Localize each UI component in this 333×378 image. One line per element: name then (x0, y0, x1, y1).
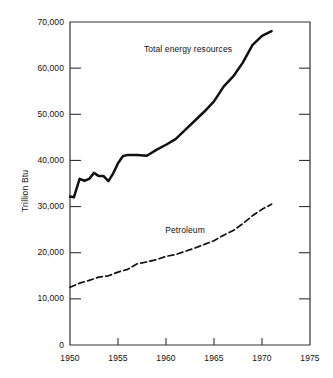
x-tick-label: 1975 (290, 353, 330, 363)
x-tick-label: 1960 (146, 353, 186, 363)
x-tick-label: 1965 (194, 353, 234, 363)
y-axis-ticks-right (299, 68, 310, 299)
y-tick-label: 40,000 (6, 155, 64, 165)
plot-canvas (0, 0, 333, 378)
y-tick-label: 50,000 (6, 109, 64, 119)
series-paths (70, 31, 272, 287)
x-axis-ticks (118, 338, 262, 345)
x-tick-label: 1950 (50, 353, 90, 363)
axis-frame (70, 22, 310, 345)
series-label-total-energy: Total energy resources (0, 44, 333, 54)
energy-resources-chart: Trillion Btu 010,00020,00030,00040,00050… (0, 0, 333, 378)
y-tick-label: 70,000 (6, 17, 64, 27)
y-tick-label: 20,000 (6, 247, 64, 257)
series-label-petroleum: Petroleum (0, 225, 333, 235)
y-tick-label: 10,000 (6, 293, 64, 303)
x-tick-label: 1955 (98, 353, 138, 363)
y-tick-label: 60,000 (6, 63, 64, 73)
y-tick-label: 0 (6, 340, 64, 350)
y-tick-label: 30,000 (6, 201, 64, 211)
x-tick-label: 1970 (242, 353, 282, 363)
